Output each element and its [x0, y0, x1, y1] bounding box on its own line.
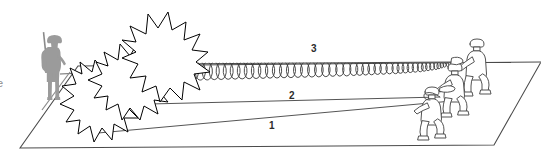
soldier-head: [51, 43, 58, 47]
middle-soldier-boot-b: [441, 113, 452, 117]
diagram-illustration: [0, 0, 541, 164]
soldier-helmet: [47, 35, 62, 43]
front-soldier-boot-a: [435, 134, 446, 138]
soldier-boot-right: [55, 97, 60, 100]
middle-soldier-boot-a: [458, 111, 469, 115]
clipped-edge-character: e: [0, 78, 3, 89]
front-soldier-helmet: [425, 87, 439, 95]
front-soldier-neck: [429, 95, 435, 99]
soldier-backpack: [41, 50, 46, 71]
front-soldier-boot-b: [418, 136, 429, 140]
soldier-boot-left: [47, 97, 52, 100]
diagram-canvas: e 1 2 3: [0, 0, 541, 164]
soldier-leg-right: [55, 73, 59, 97]
launcher-head: [451, 57, 463, 65]
rear-soldier-helmet: [470, 39, 484, 47]
callout-label-2: 2: [289, 91, 295, 101]
rear-soldier-boot-a: [480, 90, 491, 94]
rear-soldier-neck: [474, 47, 480, 51]
callout-label-1: 1: [269, 121, 275, 131]
callout-label-3: 3: [311, 44, 317, 54]
middle-soldier-neck: [452, 71, 458, 75]
launcher-mid: [440, 86, 455, 93]
soldier-leg-left: [48, 73, 52, 97]
